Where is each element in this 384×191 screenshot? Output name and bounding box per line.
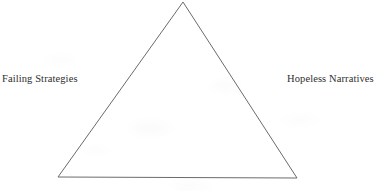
triangle-diagram (0, 0, 384, 191)
triangle-outline (58, 2, 297, 178)
diagram-page: Failing Strategies Hopeless Narratives (0, 0, 384, 191)
label-hopeless-narratives: Hopeless Narratives (287, 73, 374, 85)
label-failing-strategies: Failing Strategies (2, 73, 78, 85)
